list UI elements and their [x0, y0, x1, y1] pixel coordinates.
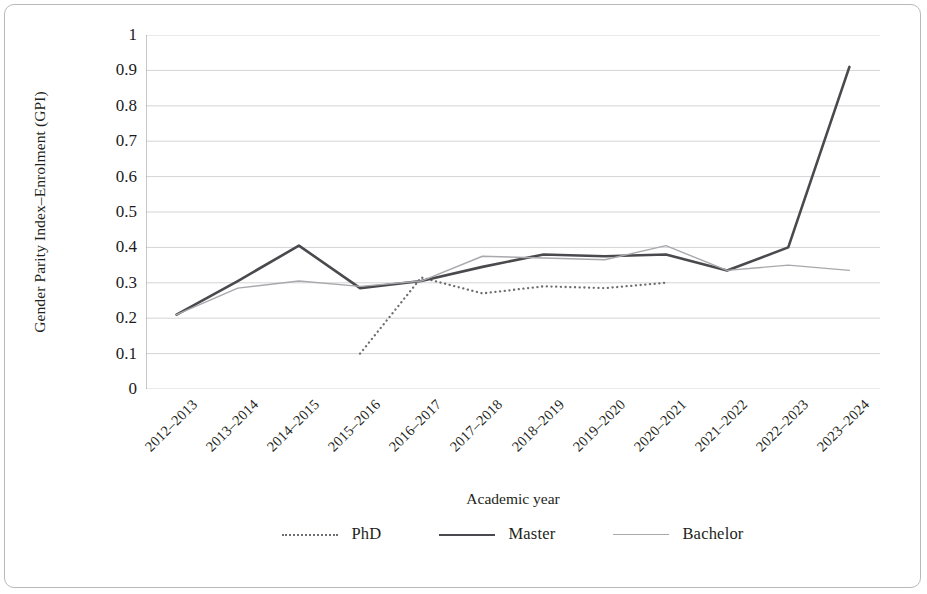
y-tick-label: 0.8 — [116, 96, 137, 116]
solid-thin-line-icon — [613, 528, 669, 540]
legend-item-bachelor[interactable]: Bachelor — [613, 524, 743, 544]
y-tick-label: 0.1 — [116, 344, 137, 364]
x-tick-label: 2019–2020 — [569, 396, 628, 455]
y-tick-label: 0.5 — [116, 202, 137, 222]
y-tick-label: 0.2 — [116, 308, 137, 328]
x-tick-label: 2017–2018 — [447, 396, 506, 455]
plot-canvas — [146, 35, 880, 389]
x-tick-label: 2018–2019 — [508, 396, 567, 455]
y-tick-label: 0.7 — [116, 131, 137, 151]
gridlines — [146, 35, 880, 389]
series-line-phd — [360, 277, 666, 353]
x-tick-label: 2013–2014 — [202, 396, 261, 455]
y-tick-label: 1 — [129, 25, 138, 45]
legend-label: Master — [508, 524, 555, 544]
plot-area: Gender Parity Index–Enrolment (GPI) 10.9… — [146, 35, 880, 389]
data-series-layer — [177, 67, 850, 354]
y-tick-label: 0.9 — [116, 60, 137, 80]
x-tick-label: 2023–2024 — [814, 396, 873, 455]
x-tick-label: 2015–2016 — [325, 396, 384, 455]
series-line-master — [177, 67, 850, 315]
chart-legend: PhDMasterBachelor — [146, 524, 880, 544]
x-tick-label: 2021–2022 — [692, 396, 751, 455]
y-tick-label: 0.4 — [116, 237, 137, 257]
dotted-line-icon — [282, 528, 338, 540]
legend-item-master[interactable]: Master — [439, 524, 555, 544]
x-tick-label: 2014–2015 — [263, 396, 322, 455]
y-tick-label: 0.3 — [116, 273, 137, 293]
x-tick-label: 2016–2017 — [386, 396, 445, 455]
y-axis-title: Gender Parity Index–Enrolment (GPI) — [28, 35, 52, 389]
legend-label: Bachelor — [682, 524, 743, 544]
chart-figure: Gender Parity Index–Enrolment (GPI) 10.9… — [0, 0, 927, 594]
y-tick-label: 0.6 — [116, 167, 137, 187]
x-tick-label: 2022–2023 — [753, 396, 812, 455]
legend-label: PhD — [351, 524, 381, 544]
x-axis-title: Academic year — [146, 490, 880, 508]
x-tick-label: 2020–2021 — [630, 396, 689, 455]
solid-thick-line-icon — [439, 528, 495, 540]
series-line-bachelor — [177, 246, 850, 315]
y-tick-label: 0 — [129, 379, 138, 399]
x-tick-label: 2012–2013 — [141, 396, 200, 455]
legend-item-phd[interactable]: PhD — [282, 524, 381, 544]
